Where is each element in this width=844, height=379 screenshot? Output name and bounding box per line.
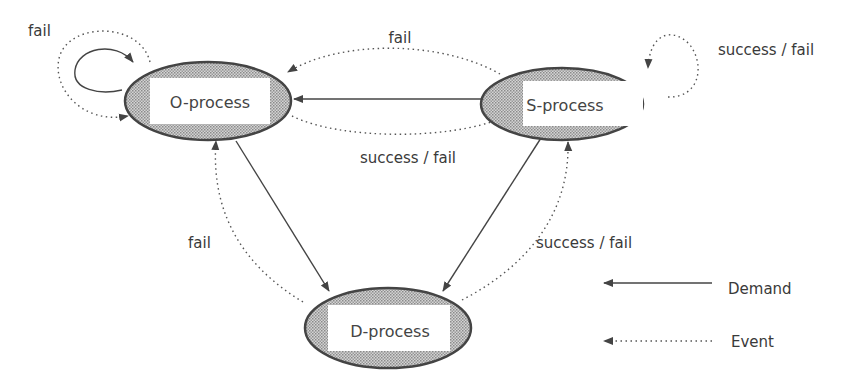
d-to-s-label: success / fail xyxy=(536,234,632,252)
d-to-o-event-arrow xyxy=(215,141,303,302)
legend-event: Event xyxy=(604,333,774,351)
d-process-node[interactable]: D-process xyxy=(305,288,471,368)
s-to-d-demand-arrow xyxy=(443,138,541,291)
s-self-event-loop xyxy=(648,35,698,97)
legend: Demand Event xyxy=(604,280,792,351)
s-to-o-label: fail xyxy=(389,29,412,47)
d-to-s-event-arrow xyxy=(462,142,568,300)
o-to-s-event-arrow xyxy=(292,116,502,134)
o-process-label: O-process xyxy=(170,93,250,112)
o-self-label: fail xyxy=(28,22,51,40)
o-to-d-demand-arrow xyxy=(236,141,329,291)
legend-demand-label: Demand xyxy=(728,280,792,298)
d-to-o-label: fail xyxy=(188,234,211,252)
s-to-o-event-arrow xyxy=(288,48,500,74)
legend-demand: Demand xyxy=(604,280,792,298)
s-process-label: S-process xyxy=(526,96,603,115)
process-diagram: O-process S-process D-process fail succe… xyxy=(0,0,844,379)
s-process-node[interactable]: S-process xyxy=(481,68,643,140)
o-process-node[interactable]: O-process xyxy=(125,62,291,140)
o-self-demand-loop xyxy=(75,49,133,92)
legend-event-label: Event xyxy=(731,333,774,351)
d-process-label: D-process xyxy=(350,322,430,341)
s-self-label: success / fail xyxy=(718,41,814,59)
o-to-s-label: success / fail xyxy=(360,149,456,167)
